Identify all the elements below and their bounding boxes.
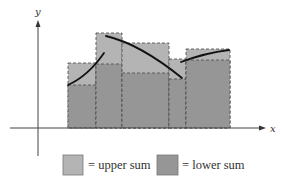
lower-sum-rect-5 <box>186 60 230 128</box>
legend-swatch-upper-sum <box>63 155 83 175</box>
y-axis-label: y <box>34 6 41 17</box>
lower-sum-rect-3 <box>122 73 169 128</box>
legend-label-upper-sum: = upper sum <box>88 158 151 172</box>
y-axis-arrow-icon <box>36 20 41 27</box>
x-axis-arrow-icon <box>259 126 266 131</box>
riemann-sum-figure: x y = upper sum = lower sum <box>0 0 284 190</box>
legend-swatch-lower-sum <box>157 155 178 175</box>
lower-sum-rect-4 <box>169 79 186 128</box>
legend-label-lower-sum: = lower sum <box>182 158 245 172</box>
x-axis-label: x <box>270 123 276 134</box>
rectangles-group <box>68 33 230 128</box>
lower-sum-rect-2 <box>96 64 122 128</box>
lower-sum-rect-1 <box>68 85 96 128</box>
